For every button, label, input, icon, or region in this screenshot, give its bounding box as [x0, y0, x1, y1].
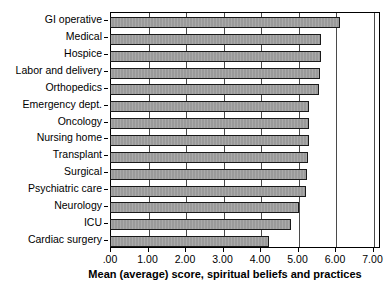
- bar-texture: [111, 153, 307, 162]
- bar-texture: [111, 52, 320, 61]
- y-tick-label: Nursing home: [8, 132, 102, 143]
- bar: [110, 186, 306, 197]
- bar-texture: [111, 203, 298, 212]
- y-tick-label: Transplant: [8, 149, 102, 160]
- x-tick-label: 5.00: [287, 253, 307, 265]
- bar-texture: [111, 220, 290, 229]
- y-tick-mark: [104, 20, 108, 21]
- y-tick-label: Psychiatric care: [8, 183, 102, 194]
- y-tick-mark: [104, 189, 108, 190]
- bar-texture: [111, 69, 319, 78]
- y-tick-label: Orthopedics: [8, 82, 102, 93]
- x-tick-label: 6.00: [325, 253, 345, 265]
- y-tick-mark: [104, 54, 108, 55]
- bar-texture: [111, 102, 308, 111]
- y-tick-label: GI operative: [8, 14, 102, 25]
- x-tick-mark: [298, 248, 299, 252]
- x-tick-label: 7.00: [362, 253, 382, 265]
- gridline-x-7: [374, 13, 375, 247]
- x-tick-mark: [373, 248, 374, 252]
- y-tick-label: Emergency dept.: [8, 99, 102, 110]
- bar-texture: [111, 119, 308, 128]
- horizontal-bar-chart: Unit GI operativeMedicalHospiceLabor and…: [0, 0, 390, 298]
- bar: [110, 101, 309, 112]
- gridline-x-5: [299, 13, 300, 247]
- bar-texture: [111, 18, 339, 27]
- x-tick-mark: [335, 248, 336, 252]
- x-axis-title: Mean (average) score, spiritual beliefs …: [60, 268, 390, 280]
- y-tick-mark: [104, 122, 108, 123]
- bar: [110, 51, 321, 62]
- bar-texture: [111, 187, 305, 196]
- bar: [110, 152, 308, 163]
- bar-texture: [111, 35, 320, 44]
- y-tick-mark: [104, 138, 108, 139]
- y-tick-label: Neurology: [8, 200, 102, 211]
- y-tick-label: Hospice: [8, 48, 102, 59]
- x-tick-mark: [223, 248, 224, 252]
- y-tick-label: ICU: [8, 217, 102, 228]
- y-tick-label: Medical: [8, 31, 102, 42]
- y-tick-label: Oncology: [8, 116, 102, 127]
- x-axis-ticks: .001.002.003.004.005.006.007.00: [110, 248, 380, 266]
- y-tick-mark: [104, 206, 108, 207]
- x-tick-mark: [110, 248, 111, 252]
- y-tick-label: Surgical: [8, 166, 102, 177]
- x-tick-label: 2.00: [175, 253, 195, 265]
- bar: [110, 202, 299, 213]
- x-tick-label: 4.00: [250, 253, 270, 265]
- x-tick-mark: [148, 248, 149, 252]
- bar-texture: [111, 237, 268, 246]
- plot-area: [110, 12, 380, 248]
- bar: [110, 169, 307, 180]
- bar: [110, 68, 320, 79]
- y-axis-tick-labels: GI operativeMedicalHospiceLabor and deli…: [8, 12, 102, 248]
- bar: [110, 84, 319, 95]
- y-tick-mark: [104, 88, 108, 89]
- x-tick-label: 1.00: [137, 253, 157, 265]
- bar: [110, 135, 309, 146]
- x-tick-label: .00: [103, 253, 118, 265]
- x-tick-mark: [185, 248, 186, 252]
- bar-texture: [111, 170, 306, 179]
- y-tick-mark: [104, 172, 108, 173]
- bar: [110, 17, 340, 28]
- y-tick-mark: [104, 105, 108, 106]
- x-tick-label: 3.00: [212, 253, 232, 265]
- gridline-x-6: [336, 13, 337, 247]
- bar-texture: [111, 85, 318, 94]
- bar-texture: [111, 136, 308, 145]
- x-tick-mark: [260, 248, 261, 252]
- bar: [110, 118, 309, 129]
- y-tick-label: Cardiac surgery: [8, 234, 102, 245]
- bar: [110, 236, 269, 247]
- bar: [110, 34, 321, 45]
- bar: [110, 219, 291, 230]
- y-tick-mark: [104, 71, 108, 72]
- y-tick-mark: [104, 240, 108, 241]
- y-tick-mark: [104, 223, 108, 224]
- y-tick-label: Labor and delivery: [8, 65, 102, 76]
- y-tick-mark: [104, 155, 108, 156]
- y-tick-mark: [104, 37, 108, 38]
